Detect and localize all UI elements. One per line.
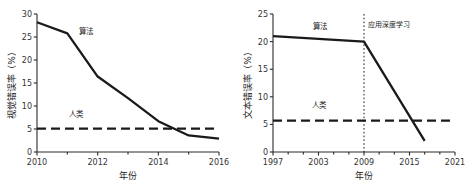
y-tick-label: 20 bbox=[22, 56, 32, 65]
y-tick-label: 10 bbox=[258, 93, 268, 102]
y-tick-label: 30 bbox=[22, 10, 32, 19]
figure-root: 051015202530 2010201220142016 算法 人类 年份 视… bbox=[0, 0, 472, 191]
x-tick-label: 2003 bbox=[308, 158, 328, 167]
x-tick-label: 2015 bbox=[399, 158, 419, 167]
y-axis-ticks: 0510152025 bbox=[258, 10, 273, 157]
text-error-rate-svg: 0510152025 19972003200920152021 算法 人类 应用… bbox=[236, 0, 472, 191]
chart-panel-vision-error-rate: 051015202530 2010201220142016 算法 人类 年份 视… bbox=[0, 0, 236, 191]
y-tick-label: 20 bbox=[258, 38, 268, 47]
x-tick-label: 2010 bbox=[27, 158, 47, 167]
x-tick-label: 2009 bbox=[354, 158, 374, 167]
vision-plot-area: 051015202530 2010201220142016 算法 人类 年份 视… bbox=[6, 10, 229, 181]
x-tick-label: 1997 bbox=[263, 158, 283, 167]
y-tick-label: 5 bbox=[263, 120, 268, 129]
algorithm-series bbox=[37, 22, 219, 138]
deep-learning-annotation-label: 应用深度学习 bbox=[368, 20, 410, 29]
y-tick-label: 25 bbox=[258, 10, 268, 19]
y-axis-title: 文本错误率（%） bbox=[242, 47, 253, 119]
y-tick-label: 0 bbox=[263, 148, 268, 157]
x-tick-label: 2012 bbox=[87, 158, 107, 167]
algorithm-series-label: 算法 bbox=[79, 26, 94, 36]
y-tick-label: 5 bbox=[27, 125, 32, 134]
text-plot-area: 0510152025 19972003200920152021 算法 人类 应用… bbox=[242, 10, 465, 181]
y-axis-ticks: 051015202530 bbox=[22, 10, 37, 157]
x-axis-title: 年份 bbox=[119, 170, 137, 181]
vision-error-rate-svg: 051015202530 2010201220142016 算法 人类 年份 视… bbox=[0, 0, 236, 191]
y-axis-title: 视觉错误率（%） bbox=[6, 47, 17, 119]
human-series-label: 人类 bbox=[69, 109, 84, 119]
algorithm-series-label: 算法 bbox=[313, 21, 328, 31]
y-tick-label: 15 bbox=[22, 79, 32, 88]
algorithm-series bbox=[273, 36, 425, 141]
x-axis-title: 年份 bbox=[355, 170, 373, 181]
x-tick-label: 2021 bbox=[445, 158, 465, 167]
chart-panel-text-error-rate: 0510152025 19972003200920152021 算法 人类 应用… bbox=[236, 0, 472, 191]
x-axis-ticks: 2010201220142016 bbox=[27, 152, 229, 167]
x-tick-label: 2016 bbox=[209, 158, 229, 167]
y-tick-label: 15 bbox=[258, 65, 268, 74]
y-tick-label: 10 bbox=[22, 102, 32, 111]
x-axis-ticks: 19972003200920152021 bbox=[263, 152, 465, 167]
human-series-label: 人类 bbox=[312, 100, 327, 110]
x-tick-label: 2014 bbox=[148, 158, 168, 167]
y-tick-label: 0 bbox=[27, 148, 32, 157]
y-tick-label: 25 bbox=[22, 33, 32, 42]
